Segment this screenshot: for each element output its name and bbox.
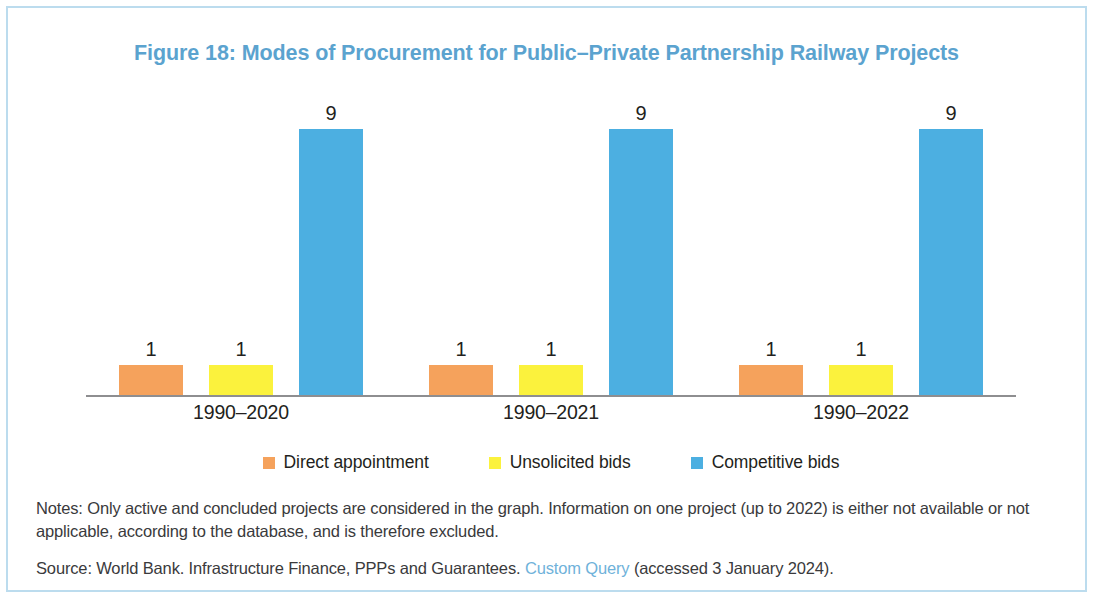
bar-slot: 9 [299, 129, 363, 395]
figure-title: Figure 18: Modes of Procurement for Publ… [8, 41, 1085, 66]
bar-value-label: 1 [429, 339, 493, 365]
bar-value-label: 1 [829, 339, 893, 365]
bar[interactable] [519, 365, 583, 395]
bar[interactable] [739, 365, 803, 395]
bar-value-label: 9 [919, 103, 983, 129]
x-axis-tick-label: 1990–2020 [86, 401, 396, 424]
custom-query-link[interactable]: Custom Query [525, 559, 630, 577]
bar-value-label: 9 [609, 103, 673, 129]
bar-slot: 1 [829, 365, 893, 395]
bar-group: 119 [396, 100, 706, 395]
bar[interactable] [429, 365, 493, 395]
bar-slot: 9 [609, 129, 673, 395]
bar-slot: 1 [119, 365, 183, 395]
legend-swatch-icon [691, 457, 703, 469]
x-axis-category-labels: 1990–20201990–20211990–2022 [86, 401, 1016, 424]
bar-slot: 1 [429, 365, 493, 395]
bar-slot: 9 [919, 129, 983, 395]
bar-value-label: 1 [739, 339, 803, 365]
legend-item[interactable]: Competitive bids [691, 452, 840, 473]
bar-group: 119 [86, 100, 396, 395]
legend-swatch-icon [263, 457, 275, 469]
legend-label: Competitive bids [712, 452, 840, 473]
source-prefix: Source: World Bank. Infrastructure Finan… [36, 559, 525, 577]
bar-groups: 119119119 [86, 100, 1016, 395]
figure-notes: Notes: Only active and concluded project… [36, 497, 1071, 543]
bar-value-label: 1 [209, 339, 273, 365]
bar-group: 119 [706, 100, 1016, 395]
bar-slot: 1 [209, 365, 273, 395]
bar-value-label: 1 [119, 339, 183, 365]
chart-plot-area: 119119119 [86, 100, 1016, 397]
bar[interactable] [829, 365, 893, 395]
bar-slot: 1 [519, 365, 583, 395]
x-axis-line [86, 395, 1016, 397]
x-axis-tick-label: 1990–2022 [706, 401, 1016, 424]
figure-source: Source: World Bank. Infrastructure Finan… [36, 557, 1071, 580]
bar[interactable] [609, 129, 673, 395]
bar-value-label: 1 [519, 339, 583, 365]
bar-slot: 1 [739, 365, 803, 395]
bar[interactable] [209, 365, 273, 395]
legend-item[interactable]: Unsolicited bids [489, 452, 631, 473]
bar-value-label: 9 [299, 103, 363, 129]
x-axis-tick-label: 1990–2021 [396, 401, 706, 424]
bar[interactable] [119, 365, 183, 395]
chart-legend: Direct appointmentUnsolicited bidsCompet… [86, 452, 1016, 473]
bar[interactable] [919, 129, 983, 395]
bar[interactable] [299, 129, 363, 395]
legend-item[interactable]: Direct appointment [263, 452, 429, 473]
figure-container: Figure 18: Modes of Procurement for Publ… [6, 6, 1087, 592]
legend-swatch-icon [489, 457, 501, 469]
legend-label: Unsolicited bids [510, 452, 631, 473]
legend-label: Direct appointment [284, 452, 429, 473]
source-suffix: (accessed 3 January 2024). [629, 559, 833, 577]
